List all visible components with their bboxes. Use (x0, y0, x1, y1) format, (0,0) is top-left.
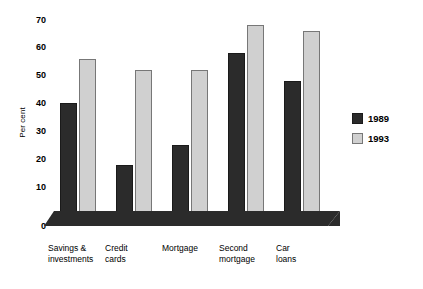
bar-savings-investments-1993 (79, 59, 96, 226)
bar-car-loans-1989 (284, 81, 301, 226)
bar-car-loans-1993 (303, 31, 320, 226)
y-tick-0: 0 (22, 222, 46, 231)
bar-second-mortgage-1993 (247, 25, 264, 226)
y-axis-ticks: 70 60 50 40 30 20 10 0 (22, 0, 46, 289)
bar-mortgage-1989 (172, 145, 189, 226)
plot-area (52, 16, 324, 226)
legend-label-1993: 1993 (368, 133, 389, 144)
bar-group-mortgage (172, 16, 208, 226)
legend-swatch-1993 (352, 133, 363, 144)
bar-group-credit-cards (116, 16, 152, 226)
legend-swatch-1989 (352, 113, 363, 124)
y-tick-10: 10 (22, 183, 46, 192)
bar-group-savings-investments (60, 16, 96, 226)
legend: 1989 1993 (352, 113, 389, 153)
bar-mortgage-1993 (191, 70, 208, 226)
category-label-car-loans: Car loans (276, 243, 332, 265)
legend-item-1989: 1989 (352, 113, 389, 124)
legend-label-1989: 1989 (368, 113, 389, 124)
y-tick-20: 20 (22, 155, 46, 164)
bar-credit-cards-1993 (135, 70, 152, 226)
bar-group-second-mortgage (228, 16, 264, 226)
category-label-mortgage: Mortgage (162, 243, 218, 265)
bar-second-mortgage-1989 (228, 53, 245, 226)
y-tick-50: 50 (22, 71, 46, 80)
bar-savings-investments-1989 (60, 103, 77, 226)
x-axis-category-labels: Savings & investments Credit cards Mortg… (48, 243, 332, 265)
category-label-credit-cards: Credit cards (105, 243, 161, 265)
y-tick-30: 30 (22, 127, 46, 136)
legend-item-1993: 1993 (352, 133, 389, 144)
y-tick-40: 40 (22, 99, 46, 108)
bar-chart: Per cent 70 60 50 40 30 20 10 0 Savings … (0, 0, 423, 289)
category-label-savings-investments: Savings & investments (48, 243, 104, 265)
bar-group-car-loans (284, 16, 320, 226)
category-label-second-mortgage: Second mortgage (219, 243, 275, 265)
y-tick-70: 70 (22, 16, 46, 25)
y-tick-60: 60 (22, 43, 46, 52)
bar-groups (52, 16, 324, 226)
bar-credit-cards-1989 (116, 165, 133, 226)
